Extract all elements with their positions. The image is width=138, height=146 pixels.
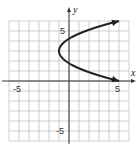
x-axis-label: x	[130, 67, 136, 78]
x-tick-label-neg5: -5	[13, 84, 21, 94]
y-axis-label: y	[72, 4, 78, 15]
y-tick-label-5: 5	[60, 26, 65, 36]
graph: y x -5 5 5 -5	[0, 0, 138, 146]
x-axis-arrow-icon	[131, 79, 136, 83]
y-axis-arrow-icon	[67, 7, 71, 12]
y-tick-label-neg5: -5	[56, 126, 64, 136]
x-tick-label-5: 5	[115, 84, 120, 94]
